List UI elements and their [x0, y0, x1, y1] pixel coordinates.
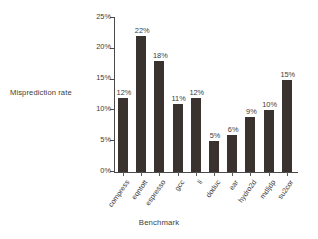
bar-group: 15% — [279, 18, 297, 172]
x-tick-mark — [232, 172, 233, 176]
bar-group: 5% — [206, 18, 224, 172]
x-tick-mark — [178, 172, 179, 176]
bar-group: 6% — [224, 18, 242, 172]
x-tick-mark — [287, 172, 288, 176]
bar — [154, 61, 164, 172]
plot-area: 0%5%10%15%20%25% 12%22%18%11%12%5%6%9%10… — [114, 18, 296, 172]
bar — [209, 141, 219, 172]
y-tick-label: 0% — [100, 166, 111, 176]
bar — [191, 98, 201, 172]
bar-group: 12% — [188, 18, 206, 172]
x-tick-mark — [269, 172, 270, 176]
x-tick-mark — [123, 172, 124, 176]
x-tick-mark — [196, 172, 197, 176]
y-tick-label: 20% — [96, 42, 111, 52]
y-tick-label: 5% — [100, 135, 111, 145]
x-tick-mark — [214, 172, 215, 176]
bar — [282, 80, 292, 172]
bar — [245, 117, 255, 172]
x-tick-mark — [141, 172, 142, 176]
bar-group: 22% — [133, 18, 151, 172]
chart-figure: Misprediction rate 0%5%10%15%20%25% 12%2… — [0, 0, 318, 239]
bar-group: 9% — [242, 18, 260, 172]
y-tick-label: 10% — [96, 104, 111, 114]
y-tick-label: 25% — [96, 12, 111, 22]
bar-group: 10% — [261, 18, 279, 172]
bar-group: 12% — [115, 18, 133, 172]
y-axis-title: Misprediction rate — [10, 88, 98, 98]
bar-value-label: 15% — [275, 70, 301, 79]
bar — [118, 98, 128, 172]
y-tick-label: 15% — [96, 73, 111, 83]
x-tick-label: li — [197, 175, 206, 183]
x-axis-title: Benchmark — [0, 218, 318, 227]
